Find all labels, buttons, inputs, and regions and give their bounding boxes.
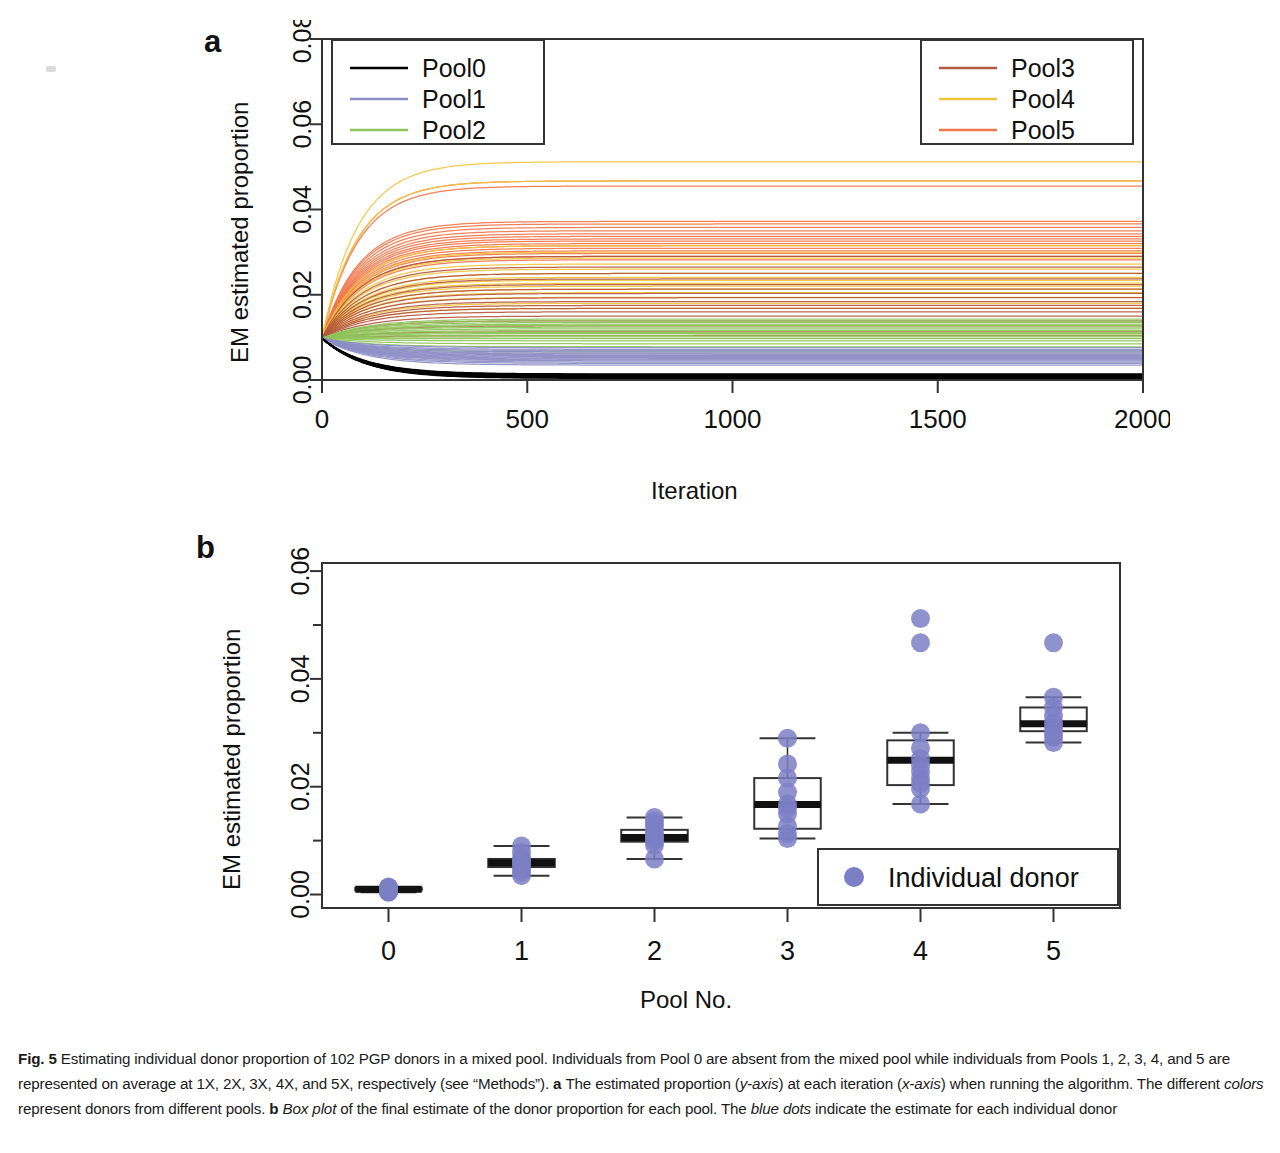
panel-a-y-tick-label-4: 0.08 <box>288 20 316 63</box>
donor-dot <box>911 609 930 628</box>
panel-b-x-tick-label-0: 0 <box>381 936 396 966</box>
donor-dots-4 <box>911 609 930 813</box>
donor-dot <box>1044 688 1063 707</box>
caption-fragment-7: ) when running the algorithm. The differ… <box>941 1075 1224 1092</box>
donor-dot <box>1044 633 1063 652</box>
caption-fragment-13: blue dots <box>751 1100 811 1117</box>
panel-b-legend: Individual donor <box>818 849 1118 905</box>
panel-a-legend-right-label-2: Pool5 <box>1011 116 1075 144</box>
panel-b-letter: b <box>196 530 215 566</box>
caption-fragment-12: of the final estimate of the donor propo… <box>336 1100 751 1117</box>
figure-root: a EM estimated proportion Iteration 0.00… <box>0 0 1280 1153</box>
panel-a-letter: a <box>204 24 221 60</box>
panel-b-y-tick-label-0: 0.00 <box>286 870 314 919</box>
panel-a-x-tick-label-2: 1000 <box>704 404 762 434</box>
panel-a-y-axis: 0.000.020.040.060.08 <box>288 20 322 404</box>
donor-dots-3 <box>778 729 797 848</box>
donor-dot <box>645 808 664 827</box>
donor-dot <box>379 877 398 896</box>
caption-fragment-14: indicate the estimate for each individua… <box>811 1100 1117 1117</box>
panel-a-y-tick-label-2: 0.04 <box>288 185 316 234</box>
panel-a-curves <box>322 162 1143 379</box>
figure-caption: Fig. 5 Estimating individual donor propo… <box>18 1046 1272 1121</box>
donor-dot <box>911 633 930 652</box>
panel-a-x-axis-label: Iteration <box>651 477 738 505</box>
caption-fragment-4: y-axis <box>740 1075 779 1092</box>
panel-b-x-tick-label-5: 5 <box>1046 936 1061 966</box>
panel-a-legend-left: Pool0Pool1Pool2 <box>332 40 544 144</box>
panel-b-legend-dot-icon <box>844 867 864 887</box>
panel-a-y-tick-label-1: 0.02 <box>288 270 316 319</box>
caption-fragment-6: x-axis <box>902 1075 941 1092</box>
panel-b-y-tick-label-3: 0.06 <box>286 547 314 596</box>
panel-a-legend-right-label-0: Pool3 <box>1011 54 1075 82</box>
panel-b-y-axis-label: EM estimated proportion <box>218 629 246 890</box>
panel-a-y-tick-label-0: 0.00 <box>288 356 316 405</box>
panel-a-legend-left-label-1: Pool1 <box>422 85 486 113</box>
panel-a-chart: 0.000.020.040.060.080500100015002000Pool… <box>250 20 1170 470</box>
panel-a-legend-right: Pool3Pool4Pool5 <box>921 40 1133 144</box>
caption-fragment-3: The estimated proportion ( <box>565 1075 739 1092</box>
panel-a-legend-left-label-0: Pool0 <box>422 54 486 82</box>
caption-fragment-8: colors <box>1224 1075 1264 1092</box>
caption-fragment-9: represent donors from different pools. <box>18 1100 269 1117</box>
curve-pool2-1 <box>322 338 1143 347</box>
panel-a-legend-left-label-2: Pool2 <box>422 116 486 144</box>
panel-a-x-tick-label-3: 1500 <box>909 404 967 434</box>
panel-b-y-tick-label-1: 0.02 <box>286 762 314 811</box>
donor-dots-2 <box>645 808 664 869</box>
caption-fragment-11: Box plot <box>283 1100 337 1117</box>
donor-dot <box>911 723 930 742</box>
donor-dot <box>778 729 797 748</box>
scan-artifact <box>46 66 56 72</box>
panel-b-legend-label: Individual donor <box>888 863 1079 893</box>
panel-a-x-tick-label-0: 0 <box>315 404 329 434</box>
donor-dots-0 <box>379 877 398 901</box>
panel-b-x-tick-label-2: 2 <box>647 936 662 966</box>
caption-fragment-10: b <box>269 1100 282 1117</box>
panel-a-x-tick-label-4: 2000 <box>1114 404 1170 434</box>
panel-a-x-tick-label-1: 500 <box>506 404 549 434</box>
panel-a-x-axis: 0500100015002000 <box>315 380 1170 434</box>
donor-dot <box>778 755 797 774</box>
panel-a-y-tick-label-3: 0.06 <box>288 100 316 149</box>
panel-b-x-axis: 012345 <box>381 908 1061 966</box>
caption-fragment-2: a <box>553 1075 565 1092</box>
panel-b-x-tick-label-3: 3 <box>780 936 795 966</box>
donor-dots-1 <box>512 837 531 886</box>
panel-b-chart: 0.000.020.040.06012345Individual donor <box>250 540 1150 1010</box>
caption-fragment-5: ) at each iteration ( <box>778 1075 901 1092</box>
panel-b-x-tick-label-4: 4 <box>913 936 928 966</box>
panel-b-y-tick-label-2: 0.04 <box>286 654 314 703</box>
caption-fragment-0: Fig. 5 <box>18 1050 61 1067</box>
donor-dots-5 <box>1044 633 1063 752</box>
donor-dot <box>512 837 531 856</box>
panel-a-legend-right-label-1: Pool4 <box>1011 85 1075 113</box>
panel-b-y-axis: 0.000.020.040.06 <box>286 547 322 919</box>
panel-b-x-tick-label-1: 1 <box>514 936 529 966</box>
